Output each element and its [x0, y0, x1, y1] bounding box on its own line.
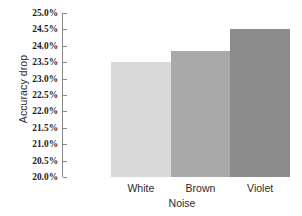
x-axis-category-label: White: [111, 182, 171, 194]
y-axis-tick-label-wrap: 22.5%: [0, 90, 58, 100]
y-axis-tick-label-wrap: 21.5%: [0, 123, 58, 133]
y-axis-tick-label: 20.5%: [0, 156, 58, 166]
y-axis-tick-label-wrap: 20.0%: [0, 172, 58, 182]
bar-chart-figure: Accuracy drop 25.0%24.5%24.0%23.5%23.0%2…: [0, 0, 302, 216]
y-axis-tick-label: 21.5%: [0, 123, 58, 133]
y-axis-tick-label: 23.0%: [0, 74, 58, 84]
y-axis-tick-label: 24.0%: [0, 41, 58, 51]
x-axis-category-label: Brown: [171, 182, 231, 194]
y-axis-tick-label-wrap: 24.0%: [0, 41, 58, 51]
y-axis-tick-label: 23.5%: [0, 57, 58, 67]
y-axis-tick-label-wrap: 21.0%: [0, 139, 58, 149]
y-axis-tick-label: 22.0%: [0, 106, 58, 116]
y-axis-tick-label-wrap: 24.5%: [0, 24, 58, 34]
y-axis-tick-label-wrap: 23.5%: [0, 57, 58, 67]
y-axis-tick-label: 21.0%: [0, 139, 58, 149]
y-axis-tick-label-wrap: 20.5%: [0, 156, 58, 166]
y-axis-tick-label: 25.0%: [0, 8, 58, 18]
y-axis-tick-label: 20.0%: [0, 172, 58, 182]
y-axis-tick-label: 24.5%: [0, 24, 58, 34]
y-axis-tick-label: 22.5%: [0, 90, 58, 100]
bar: [171, 51, 231, 177]
y-axis-tick-label-wrap: 22.0%: [0, 106, 58, 116]
y-axis-tick: [63, 177, 67, 178]
x-axis-category-label: Violet: [230, 182, 290, 194]
y-axis-tick-label-wrap: 25.0%: [0, 8, 58, 18]
x-axis-title: Noise: [63, 197, 301, 209]
bar: [111, 62, 171, 177]
plot-area: [63, 13, 301, 177]
y-axis-tick-label-wrap: 23.0%: [0, 74, 58, 84]
bar: [230, 29, 290, 177]
